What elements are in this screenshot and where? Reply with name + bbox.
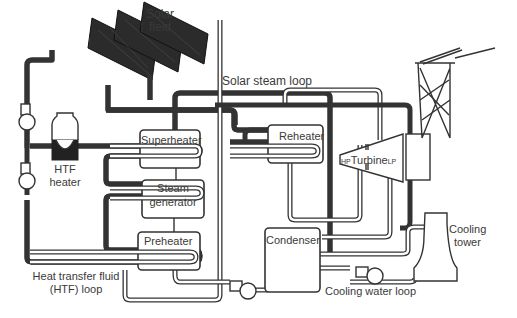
htf-pump-upper-icon bbox=[19, 104, 35, 130]
htf-pump-lower-icon bbox=[19, 163, 35, 189]
htf-heater-label-line2: heater bbox=[45, 176, 85, 189]
reheater-label: Reheater bbox=[279, 130, 324, 143]
steam-generator-label: Steam generator bbox=[142, 181, 204, 209]
htf-loop-label: Heat transfer fluid (HTF) loop bbox=[28, 270, 124, 296]
steam-generator-label-line1: Steam bbox=[142, 181, 204, 195]
condenser-label: Condenser bbox=[266, 234, 320, 247]
turbine-hp-label: HP bbox=[341, 158, 351, 165]
steam-generator-label-line2: generator bbox=[142, 195, 204, 209]
superheater-label: Superheater bbox=[141, 134, 202, 147]
htf-heater-icon bbox=[52, 113, 78, 160]
turbine-lp-label: LP bbox=[388, 158, 397, 165]
cooling-tower-label: Cooling tower bbox=[449, 223, 486, 249]
cooling-tower-label-line2: tower bbox=[449, 236, 486, 249]
htf-loop-label-line1: Heat transfer fluid bbox=[28, 270, 124, 283]
feedwater-pump-icon bbox=[230, 281, 256, 299]
transmission-tower-icon bbox=[415, 48, 495, 138]
solar-steam-loop-label: Solar steam loop bbox=[222, 75, 312, 88]
cooling-tower-label-line1: Cooling bbox=[449, 223, 486, 236]
htf-heater-label: HTF heater bbox=[45, 163, 85, 189]
turbine-label: HPTurbineLP bbox=[341, 154, 396, 168]
cooling-water-loop-label: Cooling water loop bbox=[325, 285, 416, 298]
turbine-name-label: Turbine bbox=[351, 154, 388, 166]
solar-field-label: Solar field bbox=[137, 8, 183, 34]
htf-loop-label-line2: (HTF) loop bbox=[28, 283, 124, 296]
solar-field-label-line2: field bbox=[137, 21, 183, 34]
preheater-label: Preheater bbox=[144, 235, 192, 248]
htf-heater-label-line1: HTF bbox=[45, 163, 85, 176]
